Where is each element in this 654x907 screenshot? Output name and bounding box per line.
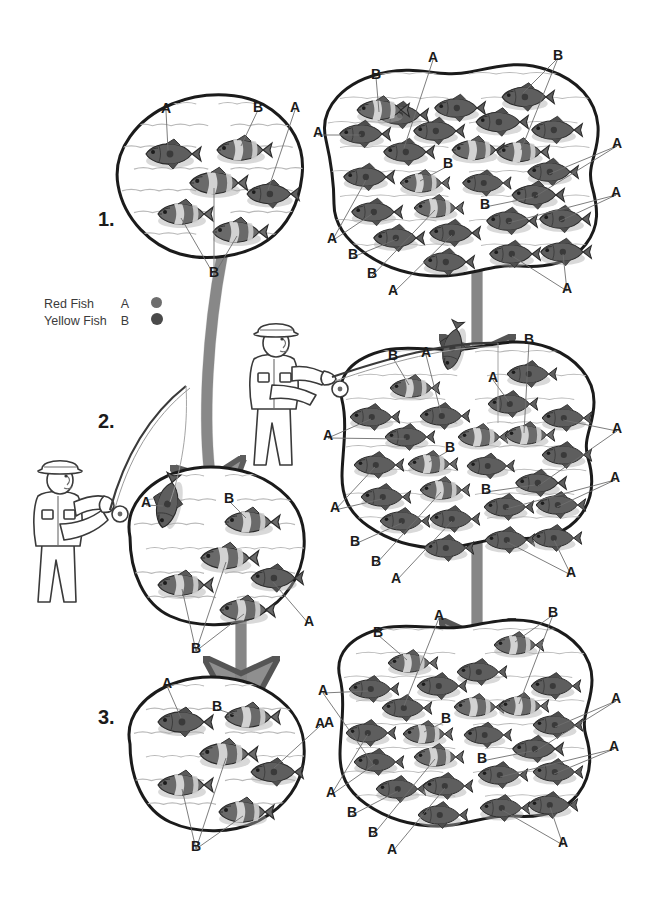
fish-label-A: A: [330, 499, 340, 515]
fish-label-A: A: [428, 49, 438, 65]
fish-label-A: A: [318, 682, 328, 698]
fish-label-A: A: [324, 714, 334, 730]
eye: [280, 337, 283, 340]
fish-label-B: B: [553, 47, 563, 63]
fish-label-A: A: [388, 282, 398, 298]
fish-label-A: A: [161, 100, 171, 116]
fish-label-A: A: [326, 784, 336, 800]
pond-small-1: [117, 95, 305, 258]
step-number-3: 3.: [98, 706, 115, 729]
fish-label-A: A: [290, 99, 300, 115]
fish-label-B: B: [548, 604, 558, 620]
vest-pocket: [42, 510, 53, 519]
fish-label-B: B: [367, 265, 377, 281]
fish-label-B: B: [373, 624, 383, 640]
fish-label-A: A: [612, 135, 622, 151]
legend-dot: [151, 313, 163, 325]
fish-label-B: B: [371, 66, 381, 82]
fish-label-B: B: [477, 750, 487, 766]
pond-large-3: [339, 620, 592, 829]
fish-label-B: B: [350, 533, 360, 549]
fish-label-A: A: [421, 344, 431, 360]
ponds: [117, 65, 598, 831]
fish-label-A: A: [434, 607, 444, 623]
fish-label-B: B: [481, 481, 491, 497]
fish-label-B: B: [524, 331, 534, 347]
arrow-curved-1to2: [207, 256, 222, 484]
fish-label-B: B: [443, 155, 453, 171]
diagram-artwork: ABABABBABAABABBAAABABBAABABAABABBAAABABB…: [0, 0, 654, 907]
fish-label-A: A: [612, 420, 622, 436]
fish-label-B: B: [347, 804, 357, 820]
legend-fish-code: A: [121, 296, 151, 312]
fish-label-B: B: [191, 640, 201, 656]
fish-label-A: A: [327, 230, 337, 246]
fish-label-B: B: [388, 347, 398, 363]
fish-label-B: B: [348, 246, 358, 262]
fish-label-A: A: [313, 124, 323, 140]
fish-label-A: A: [323, 427, 333, 443]
fish-label-A: A: [162, 675, 172, 691]
fish-label-A: A: [141, 494, 151, 510]
legend-dot: [151, 297, 162, 308]
fish-label-A: A: [611, 184, 621, 200]
fish-label-A: A: [488, 369, 498, 385]
step-number-1: 1.: [98, 208, 115, 231]
legend: Red FishAYellow FishB: [44, 296, 163, 329]
vest-pocket: [258, 373, 269, 382]
fish-label-A: A: [387, 841, 397, 857]
fish-label-B: B: [212, 698, 222, 714]
fish-label-B: B: [480, 196, 490, 212]
vest-pocket: [64, 510, 75, 519]
fish-label-A: A: [611, 690, 621, 706]
diagram-canvas: ABABABBABAABABBAAABABBAABABAABABBAAABABB…: [0, 0, 654, 907]
legend-row: Yellow FishB: [44, 312, 163, 329]
fish-label-B: B: [224, 490, 234, 506]
pond-large-2: [341, 318, 594, 561]
fish-label-A: A: [610, 469, 620, 485]
fish-label-A: A: [391, 570, 401, 586]
reel-hub: [338, 387, 343, 392]
legend-fish-name: Yellow Fish: [44, 312, 121, 329]
legend-fish-code: B: [121, 312, 151, 329]
fish-label-A: A: [562, 280, 572, 296]
fish-label-A: A: [609, 738, 619, 754]
legend-fish-name: Red Fish: [44, 296, 121, 312]
fish-label-B: B: [445, 439, 455, 455]
fish-label-A: A: [558, 834, 568, 850]
fish-label-B: B: [209, 264, 219, 280]
legend-row: Red FishA: [44, 296, 163, 312]
trousers: [38, 544, 76, 602]
fish-label-B: B: [371, 553, 381, 569]
legend-table: Red FishAYellow FishB: [44, 296, 163, 329]
fish-label-B: B: [191, 838, 201, 854]
legend-color-swatch: [151, 296, 163, 312]
fish-label-B: B: [441, 710, 451, 726]
pond-outline: [129, 467, 304, 625]
fish-label-A: A: [566, 564, 576, 580]
step-number-2: 2.: [98, 410, 115, 433]
fish-label-B: B: [368, 824, 378, 840]
pond-small-2: [129, 467, 307, 625]
legend-color-swatch: [151, 312, 163, 329]
fish-label-A: A: [304, 613, 314, 629]
trousers: [254, 407, 292, 465]
reel-hub: [118, 512, 123, 517]
vest-pocket: [280, 373, 291, 382]
fish-label-B: B: [253, 99, 263, 115]
eye: [64, 474, 67, 477]
